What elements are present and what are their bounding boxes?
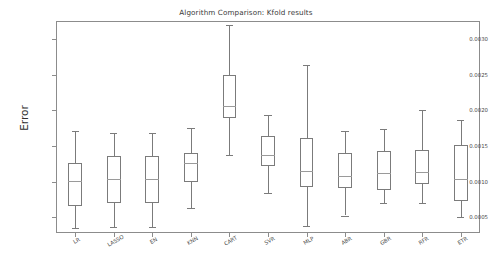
figure-canvas: Algorithm Comparison: Kfold results Erro… <box>0 0 492 269</box>
y-tick-mark <box>52 39 56 40</box>
x-tick-label: EN <box>149 236 158 245</box>
cap-upper <box>187 128 194 129</box>
cap-upper <box>419 110 426 111</box>
whisker-lower <box>422 184 423 203</box>
cap-lower <box>303 226 310 227</box>
median-line <box>68 181 82 182</box>
cap-upper <box>457 120 464 121</box>
box-rect <box>415 150 429 185</box>
x-tick-label: ETR <box>456 235 468 245</box>
whisker-upper <box>307 65 308 139</box>
x-tick-label: LASSO <box>106 234 125 248</box>
median-line <box>377 173 391 174</box>
whisker-upper <box>461 120 462 145</box>
cap-lower <box>72 228 79 229</box>
x-tick-label: GBR <box>379 235 392 246</box>
y-tick-mark <box>52 182 56 183</box>
cap-lower <box>226 155 233 156</box>
median-line <box>300 171 314 172</box>
whisker-lower <box>345 188 346 215</box>
cap-upper <box>110 133 117 134</box>
box-rect <box>300 138 314 187</box>
whisker-lower <box>229 118 230 155</box>
cap-upper <box>341 131 348 132</box>
box-rect <box>184 153 198 183</box>
whisker-lower <box>191 182 192 207</box>
cap-lower <box>457 217 464 218</box>
whisker-lower <box>114 203 115 227</box>
median-line <box>184 163 198 164</box>
x-tick-label: ABR <box>340 235 353 246</box>
cap-lower <box>264 193 271 194</box>
x-tick-label: KNN <box>186 235 199 246</box>
y-axis-label: Error <box>18 88 30 148</box>
y-tick-label: 0.0010 <box>469 179 488 185</box>
y-tick-label: 0.0005 <box>469 214 488 220</box>
cap-lower <box>187 208 194 209</box>
whisker-lower <box>268 166 269 192</box>
x-tick-label: CART <box>223 234 238 246</box>
whisker-upper <box>152 133 153 156</box>
cap-lower <box>110 227 117 228</box>
whisker-lower <box>152 203 153 227</box>
y-tick-label: 0.0020 <box>469 107 488 113</box>
cap-upper <box>72 131 79 132</box>
median-line <box>415 172 429 173</box>
median-line <box>107 179 121 180</box>
cap-upper <box>303 65 310 66</box>
y-tick-mark <box>52 217 56 218</box>
cap-upper <box>380 129 387 130</box>
whisker-upper <box>345 131 346 153</box>
x-tick-label: RFR <box>418 235 430 245</box>
y-tick-label: 0.0015 <box>469 143 488 149</box>
whisker-lower <box>461 201 462 217</box>
whisker-lower <box>75 206 76 228</box>
whisker-upper <box>268 115 269 136</box>
whisker-upper <box>384 129 385 151</box>
y-tick-mark <box>52 110 56 111</box>
median-line <box>145 179 159 180</box>
whisker-upper <box>422 110 423 150</box>
whisker-upper <box>75 131 76 164</box>
median-line <box>338 176 352 177</box>
cap-lower <box>341 216 348 217</box>
cap-upper <box>226 25 233 26</box>
x-tick-label: LR <box>72 236 81 245</box>
box-rect <box>261 136 275 166</box>
median-line <box>223 106 237 107</box>
box-rect <box>68 163 82 205</box>
box-rect <box>223 75 237 118</box>
cap-lower <box>149 227 156 228</box>
whisker-lower <box>384 190 385 203</box>
whisker-lower <box>307 187 308 225</box>
x-tick-label: SVR <box>263 235 275 246</box>
y-tick-label: 0.0025 <box>469 72 488 78</box>
box-rect <box>377 151 391 190</box>
cap-lower <box>419 203 426 204</box>
whisker-upper <box>229 25 230 75</box>
x-tick-label: MLP <box>302 235 314 246</box>
whisker-upper <box>114 133 115 156</box>
whisker-upper <box>191 128 192 153</box>
y-tick-mark <box>52 75 56 76</box>
median-line <box>261 155 275 156</box>
cap-upper <box>149 133 156 134</box>
box-rect <box>338 153 352 188</box>
cap-lower <box>380 203 387 204</box>
chart-title: Algorithm Comparison: Kfold results <box>0 8 492 17</box>
median-line <box>454 179 468 180</box>
y-tick-label: 0.0030 <box>469 36 488 42</box>
y-tick-mark <box>52 146 56 147</box>
cap-upper <box>264 115 271 116</box>
box-rect <box>454 145 468 201</box>
